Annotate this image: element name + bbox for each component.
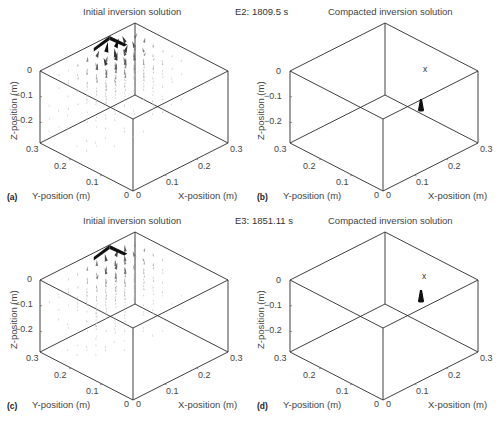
vector-arrow	[68, 304, 69, 307]
vector-arrow	[124, 293, 125, 296]
vector-arrow	[96, 73, 97, 76]
panel-d-y-tick-1: 0.2	[303, 370, 316, 380]
vector-arrow	[143, 327, 144, 329]
panel-b-x-tick-1: 0.1	[416, 177, 429, 187]
vector-arrow	[152, 53, 153, 57]
vector-arrow	[58, 73, 59, 76]
vector-arrow	[181, 294, 182, 296]
panel-a-y-tick-0: 0.3	[26, 144, 39, 154]
panel-d-x-tick-1: 0.1	[416, 386, 429, 396]
x-tick-mark	[196, 159, 198, 160]
panel-d-y-tick-3: 0	[374, 399, 379, 409]
box-edge	[383, 71, 478, 119]
vector-arrow	[68, 95, 69, 98]
vector-arrow	[143, 285, 144, 288]
vector-arrow	[96, 328, 97, 331]
box-edge	[40, 232, 135, 280]
panel-b-x-tick-2: 0.2	[448, 161, 461, 171]
vector-arrow	[77, 286, 78, 289]
vector-arrow	[115, 321, 116, 324]
vector-arrow	[162, 290, 163, 293]
vector-arrow	[86, 98, 87, 101]
vector-arrow	[58, 308, 59, 311]
panel-a-x-tick-0: 0	[136, 190, 141, 200]
box-edge	[290, 23, 385, 71]
vector-arrow	[104, 42, 108, 53]
vector-arrow	[153, 289, 154, 292]
vector-arrow	[161, 60, 162, 62]
x-tick-mark	[165, 384, 167, 385]
vector-arrow	[106, 98, 107, 101]
panel-a-event-label: E2: 1809.5 s	[235, 6, 288, 17]
panel-c-x-tick-2: 0.2	[198, 370, 211, 380]
vector-arrow	[86, 310, 87, 312]
vector-arrow	[114, 340, 115, 343]
panel-c-y-tick-1: 0.2	[54, 370, 67, 380]
vector-arrow	[67, 114, 68, 116]
vector-arrow	[142, 258, 144, 262]
panel-b-source-marker: x	[423, 64, 427, 74]
vector-arrow	[106, 310, 107, 313]
vector-arrow	[96, 335, 97, 337]
vector-arrow	[106, 87, 107, 91]
panel-b-y-tick-1: 0.2	[303, 161, 316, 171]
vector-arrow	[143, 281, 144, 284]
vector-arrow	[77, 305, 78, 308]
vector-arrow	[96, 315, 97, 318]
vector-arrow	[152, 99, 153, 102]
vector-arrow	[162, 95, 163, 97]
vector-arrow	[143, 267, 144, 270]
vector-arrow	[124, 304, 125, 306]
panel-c-y-tick-0: 0.3	[26, 353, 39, 363]
panel-c-title: Initial inversion solution	[83, 215, 181, 226]
vector-arrow	[143, 311, 144, 313]
panel-b-y-tick-3: 0	[374, 190, 379, 200]
vector-arrow	[134, 74, 135, 76]
panel-d-y-tick-0: 0.3	[274, 353, 287, 363]
box-edge	[40, 23, 135, 71]
vector-arrow	[96, 318, 97, 321]
vector-arrow	[95, 141, 96, 143]
box-edge	[290, 232, 385, 280]
y-tick-mark	[100, 175, 102, 176]
vector-arrow	[153, 263, 154, 267]
box-edge	[133, 352, 228, 400]
vector-arrow	[96, 305, 97, 308]
vector-arrow	[77, 344, 78, 346]
vector-arrow	[133, 109, 134, 112]
x-tick-mark	[446, 368, 448, 369]
vector-arrow	[143, 303, 144, 306]
vector-arrow	[143, 98, 144, 101]
vector-arrow	[115, 302, 116, 305]
vector-arrow	[153, 276, 154, 279]
vector-arrow	[134, 33, 137, 38]
vector-arrow	[124, 316, 125, 319]
x-tick-mark	[415, 384, 417, 385]
panel-b-x-tick-0: 0	[386, 190, 391, 200]
box-edge	[290, 280, 383, 328]
vector-arrow	[114, 79, 116, 83]
compacted-vector-base	[418, 300, 424, 303]
box-edge	[290, 304, 385, 352]
vector-arrow	[49, 300, 50, 303]
vector-arrow	[115, 73, 116, 76]
panel-b-x-axis-label: X-position (m)	[428, 190, 487, 201]
vector-arrow	[143, 71, 144, 75]
x-tick-mark	[196, 368, 198, 369]
vector-arrow	[87, 330, 88, 332]
vector-arrow	[143, 78, 144, 81]
vector-arrow	[114, 106, 115, 108]
vector-arrow	[153, 58, 155, 61]
vector-arrow	[153, 299, 154, 301]
panel-c-x-tick-3: 0.3	[230, 353, 243, 363]
vector-arrow	[124, 98, 125, 101]
vector-arrow	[143, 278, 144, 281]
vector-arrow	[162, 258, 163, 261]
vector-arrow	[86, 149, 87, 152]
vector-arrow	[106, 307, 107, 310]
vector-arrow	[95, 337, 96, 340]
panel-a-y-tick-3: 0	[124, 190, 129, 200]
y-tick-mark	[69, 368, 71, 369]
vector-arrow	[171, 54, 172, 57]
vector-arrow	[115, 292, 116, 295]
